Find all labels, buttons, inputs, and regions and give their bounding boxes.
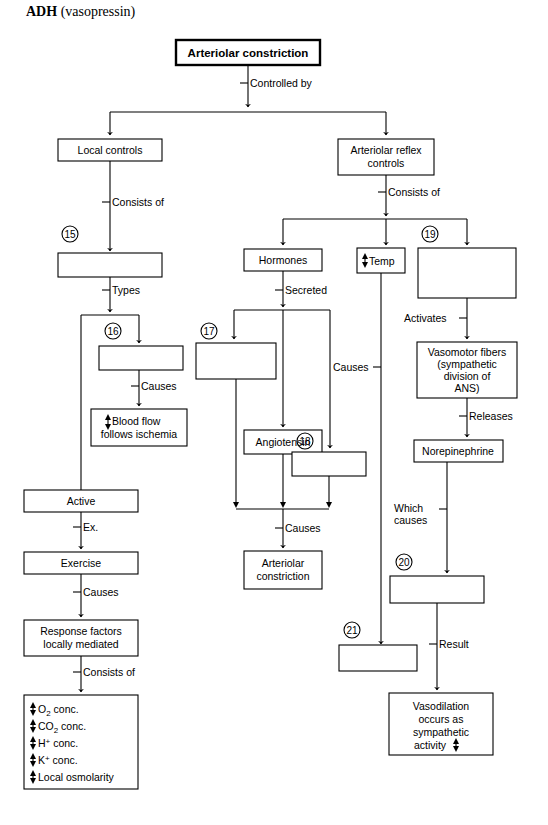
node-label: Active [67, 495, 96, 507]
node-local-controls[interactable]: Local controls [58, 139, 162, 161]
node-label-line3: sympathetic [413, 726, 469, 738]
edge-label-activates: Activates [404, 312, 447, 324]
node-label-line2: occurs as [419, 713, 464, 725]
node-hormones[interactable]: Hormones [244, 249, 322, 271]
node-blank-20[interactable]: 20 [390, 554, 484, 603]
node-label-line1: Blood flow [112, 415, 161, 427]
node-label-line4: ANS) [454, 382, 479, 394]
node-blank-21[interactable]: 21 [339, 622, 417, 671]
node-label-line3: division of [444, 370, 491, 382]
node-blood-flow-follows-ischemia[interactable]: Blood flow follows ischemia [91, 409, 187, 446]
node-norepinephrine[interactable]: Norepinephrine [414, 440, 503, 462]
edge-label-consists-of-left: Consists of [112, 196, 164, 208]
node-box [196, 343, 276, 379]
arrowhead-angiotensin-join [280, 502, 286, 508]
edge-label-types: Types [112, 284, 140, 296]
node-label-line2: follows ischemia [101, 428, 178, 440]
arrowhead-18-join [326, 502, 332, 508]
node-arteriolar-constriction-middle[interactable]: Arteriolar constriction [244, 551, 322, 589]
node-label-line1: Response factors [40, 625, 122, 637]
node-active[interactable]: Active [24, 490, 138, 512]
node-label-line1: Arteriolar reflex [350, 144, 422, 156]
svg-text:H+ conc.: H+ conc. [38, 737, 78, 750]
number-label: 20 [398, 557, 410, 568]
node-blank-16[interactable]: 16 [99, 323, 183, 370]
node-blank-17[interactable]: 17 [196, 323, 276, 379]
edge-label-controlled-by: Controlled by [250, 77, 313, 89]
flowchart-diagram: Arteriolar constriction Controlled by Lo… [0, 0, 548, 825]
node-box [292, 452, 366, 476]
edge-label-secreted: Secreted [285, 284, 327, 296]
node-label-line2: (sympathetic [437, 358, 497, 370]
node-box [390, 576, 484, 603]
arrowhead-17-join [233, 502, 239, 508]
node-arteriolar-constriction-root[interactable]: Arteriolar constriction [176, 40, 320, 65]
list-item-label: O [38, 703, 46, 715]
node-label-line4: activity [414, 739, 447, 751]
node-label: Temp [369, 255, 395, 267]
node-vasodilation[interactable]: Vasodilation occurs as sympathetic activ… [389, 693, 493, 755]
list-item-rest: conc. [51, 703, 79, 715]
edge-label-causes-hormone-group: Causes [285, 522, 321, 534]
node-box [339, 645, 417, 671]
number-label: 15 [64, 229, 76, 240]
list-item-label: Local osmolarity [38, 771, 115, 783]
node-box [58, 253, 162, 277]
edge-label-causes-exercise: Causes [83, 586, 119, 598]
node-vasomotor-fibers[interactable]: Vasomotor fibers (sympathetic division o… [417, 342, 517, 398]
node-box [418, 248, 516, 298]
list-item-rest: conc. [58, 720, 86, 732]
node-response-factors[interactable]: Response factors locally mediated [24, 620, 138, 656]
node-label: Arteriolar constriction [188, 47, 309, 59]
list-item-label: H [38, 737, 46, 749]
edge-label-consists-of-right: Consists of [388, 186, 440, 198]
edge-label-causes-16: Causes [141, 380, 177, 392]
node-box [99, 346, 183, 370]
node-label-line1: Arteriolar [262, 557, 305, 569]
number-label: 18 [299, 436, 311, 447]
svg-text:K+ conc.: K+ conc. [38, 754, 78, 767]
node-label-line2: controls [368, 157, 405, 169]
node-label-line1: Vasodilation [413, 700, 470, 712]
number-label: 21 [346, 625, 358, 636]
edge-label-which-causes-line2: causes [394, 514, 427, 526]
list-item-rest: conc. [50, 754, 78, 766]
list-item: Local osmolarity [30, 770, 115, 784]
node-temp[interactable]: Temp [357, 248, 405, 273]
list-item-label: CO [38, 720, 54, 732]
node-label-line2: locally mediated [43, 638, 118, 650]
edge-label-which-causes-line1: Which [394, 502, 423, 514]
list-item: K+ conc. [30, 753, 78, 767]
edge-label-releases: Releases [469, 410, 513, 422]
node-label: Exercise [61, 557, 101, 569]
node-label: Local controls [78, 144, 143, 156]
edge-label-result: Result [439, 638, 469, 650]
edge-label-consists-of-factors: Consists of [83, 666, 135, 678]
number-label: 16 [107, 326, 119, 337]
node-local-factors-list[interactable]: O2 conc. CO2 conc. H+ conc. [24, 695, 138, 789]
node-arteriolar-reflex-controls[interactable]: Arteriolar reflex controls [338, 139, 434, 175]
node-label: Norepinephrine [422, 445, 494, 457]
number-label: 19 [424, 229, 436, 240]
node-exercise[interactable]: Exercise [24, 552, 138, 574]
list-item: H+ conc. [30, 736, 78, 750]
list-item-label: K [38, 754, 45, 766]
node-label-line1: Vasomotor fibers [428, 346, 507, 358]
list-item-rest: conc. [50, 737, 78, 749]
number-label: 17 [203, 326, 215, 337]
node-blank-18[interactable]: 18 [292, 433, 366, 476]
edge-label-causes-temp: Causes [333, 361, 369, 373]
edge-label-ex: Ex. [83, 521, 98, 533]
node-label: Hormones [259, 254, 307, 266]
node-label-line2: constriction [256, 570, 309, 582]
